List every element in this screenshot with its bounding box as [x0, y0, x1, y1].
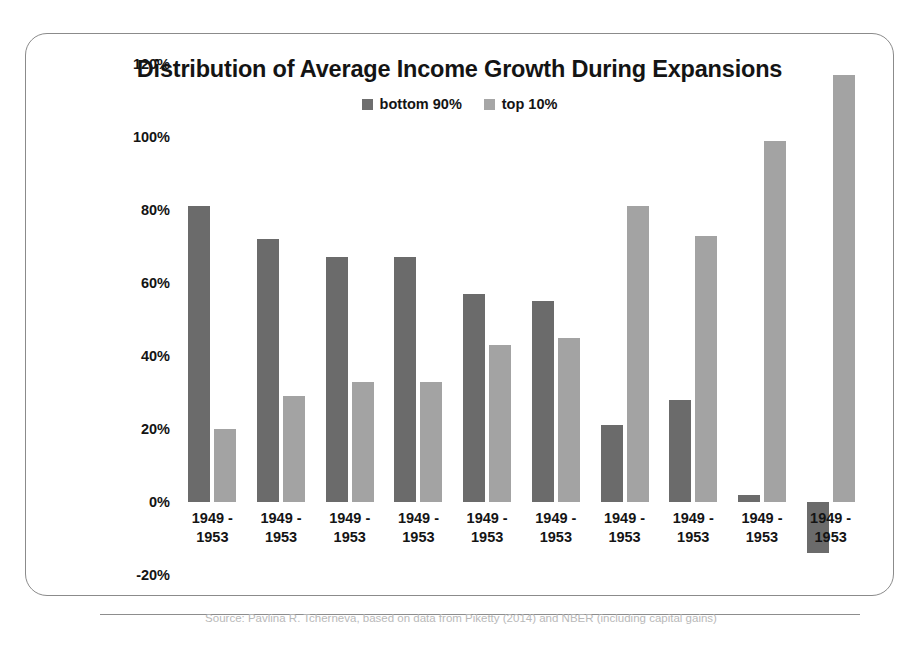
bar-top10[interactable] [489, 345, 511, 502]
bar-group: 1949 -1953 [522, 64, 591, 575]
bar-group: 1949 -1953 [384, 64, 453, 575]
bar-bottom90[interactable] [669, 400, 691, 502]
x-axis-tick-label: 1949 -1953 [796, 509, 865, 547]
x-label-line-2: 1953 [315, 528, 384, 547]
x-label-line-2: 1953 [659, 528, 728, 547]
bar-top10[interactable] [695, 236, 717, 502]
x-label-line-1: 1949 - [384, 509, 453, 528]
y-axis-tick-label: 60% [104, 275, 170, 291]
x-label-line-1: 1949 - [247, 509, 316, 528]
y-axis: 120%100%80%60%40%20%0%-20% [100, 64, 170, 575]
bar-bottom90[interactable] [463, 294, 485, 502]
bar-top10[interactable] [558, 338, 580, 502]
bar-group: 1949 -1953 [453, 64, 522, 575]
bar-group: 1949 -1953 [659, 64, 728, 575]
x-label-line-1: 1949 - [522, 509, 591, 528]
bar-group: 1949 -1953 [796, 64, 865, 575]
x-axis-tick-label: 1949 -1953 [522, 509, 591, 547]
bar-group: 1949 -1953 [728, 64, 797, 575]
chart-frame: Distribution of Average Income Growth Du… [25, 33, 894, 596]
x-label-line-1: 1949 - [728, 509, 797, 528]
bar-top10[interactable] [627, 206, 649, 502]
x-axis-tick-label: 1949 -1953 [247, 509, 316, 547]
plot-area: 120%100%80%60%40%20%0%-20% 1949 -1953194… [100, 64, 875, 575]
x-label-line-2: 1953 [247, 528, 316, 547]
x-axis-tick-label: 1949 -1953 [178, 509, 247, 547]
y-axis-tick-label: -20% [104, 567, 170, 583]
figure-caption: Source: Pavlina R. Tcherneva, based on d… [0, 612, 922, 624]
x-label-line-2: 1953 [728, 528, 797, 547]
bar-group: 1949 -1953 [178, 64, 247, 575]
bar-top10[interactable] [420, 382, 442, 502]
x-label-line-2: 1953 [590, 528, 659, 547]
bar-top10[interactable] [214, 429, 236, 502]
bar-bottom90[interactable] [738, 495, 760, 502]
x-label-line-2: 1953 [453, 528, 522, 547]
y-axis-tick-label: 40% [104, 348, 170, 364]
bar-bottom90[interactable] [188, 206, 210, 502]
x-axis-tick-label: 1949 -1953 [728, 509, 797, 547]
bar-group: 1949 -1953 [590, 64, 659, 575]
x-axis-tick-label: 1949 -1953 [453, 509, 522, 547]
bar-top10[interactable] [764, 141, 786, 502]
y-axis-tick-label: 100% [104, 129, 170, 145]
y-axis-tick-label: 80% [104, 202, 170, 218]
x-label-line-1: 1949 - [659, 509, 728, 528]
bar-group: 1949 -1953 [315, 64, 384, 575]
x-label-line-1: 1949 - [178, 509, 247, 528]
x-label-line-2: 1953 [522, 528, 591, 547]
x-axis-tick-label: 1949 -1953 [384, 509, 453, 547]
x-label-line-2: 1953 [796, 528, 865, 547]
bar-top10[interactable] [833, 75, 855, 502]
bar-top10[interactable] [352, 382, 374, 502]
bars-layer: 1949 -19531949 -19531949 -19531949 -1953… [178, 64, 865, 575]
bar-bottom90[interactable] [257, 239, 279, 502]
x-label-line-2: 1953 [178, 528, 247, 547]
x-axis-tick-label: 1949 -1953 [659, 509, 728, 547]
y-axis-tick-label: 120% [104, 56, 170, 72]
y-axis-tick-label: 0% [104, 494, 170, 510]
x-label-line-1: 1949 - [315, 509, 384, 528]
bar-bottom90[interactable] [326, 257, 348, 502]
bar-top10[interactable] [283, 396, 305, 502]
x-axis-tick-label: 1949 -1953 [315, 509, 384, 547]
x-label-line-1: 1949 - [796, 509, 865, 528]
bar-bottom90[interactable] [394, 257, 416, 502]
x-label-line-1: 1949 - [590, 509, 659, 528]
y-axis-tick-label: 20% [104, 421, 170, 437]
bar-bottom90[interactable] [601, 425, 623, 502]
bar-bottom90[interactable] [532, 301, 554, 502]
x-label-line-2: 1953 [384, 528, 453, 547]
bar-group: 1949 -1953 [247, 64, 316, 575]
x-axis-tick-label: 1949 -1953 [590, 509, 659, 547]
x-label-line-1: 1949 - [453, 509, 522, 528]
